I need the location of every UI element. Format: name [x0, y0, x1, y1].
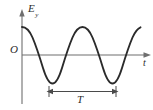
x-axis-label: t — [143, 58, 146, 68]
origin-label: O — [10, 44, 18, 55]
y-axis-label-text: E — [28, 2, 35, 14]
y-axis-label: Ey — [28, 3, 38, 17]
period-arrowhead-right — [112, 89, 119, 94]
period-label: T — [77, 94, 83, 105]
wave-figure: Ey O t T — [0, 0, 153, 110]
y-axis-label-subscript: y — [35, 11, 38, 19]
period-arrowhead-left — [47, 89, 54, 94]
y-axis-arrowhead — [19, 9, 24, 17]
